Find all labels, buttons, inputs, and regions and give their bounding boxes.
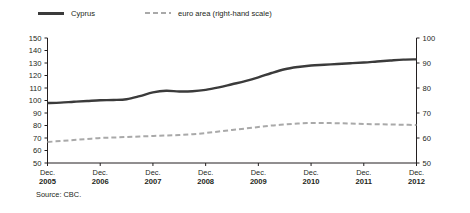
x-axis-tick-year: 2007 [144,177,161,186]
left-axis-tick-label: 150 [29,34,42,43]
left-axis-tick-label: 90 [33,109,41,118]
chart-plot-area: 5060708090100110120130140150 50607080901… [0,0,470,213]
left-axis-tick-label: 100 [29,96,42,105]
left-axis-tick-label: 50 [33,159,41,168]
source-note: Source: CBC. [36,190,81,199]
left-axis-tick-label: 140 [29,46,42,55]
right-axis-tick-label: 100 [423,34,436,43]
left-axis-tick-label: 60 [33,146,41,155]
series-line-cyprus [48,59,417,103]
x-axis-tick-year: 2010 [303,177,320,186]
chart-figure: Cyprus euro area (right-hand scale) 5060… [0,0,470,213]
left-axis-tick-label: 70 [33,134,41,143]
x-axis-tick-month: Dec. [93,168,108,177]
left-axis-tick-label: 110 [29,84,41,93]
x-axis-tick-month: Dec. [303,168,318,177]
right-axis: 5060708090100 [417,34,436,168]
right-axis-tick-label: 50 [423,159,431,168]
left-axis-tick-label: 120 [29,71,42,80]
x-axis-tick-month: Dec. [356,168,371,177]
right-axis-tick-label: 70 [423,109,431,118]
chart-series-lines [48,59,417,142]
x-axis-tick-month: Dec. [198,168,213,177]
x-axis-tick-month: Dec. [251,168,266,177]
right-axis-tick-label: 80 [423,84,431,93]
x-axis-tick-year: 2012 [408,177,425,186]
chart-svg: 5060708090100110120130140150 50607080901… [0,0,470,213]
x-axis-tick-month: Dec. [40,168,55,177]
right-axis-tick-label: 90 [423,59,431,68]
left-axis-tick-label: 130 [29,59,42,68]
x-axis-tick-month: Dec. [145,168,160,177]
x-axis-tick-year: 2011 [356,177,373,186]
x-axis-tick-year: 2005 [39,177,57,186]
x-axis: Dec.2005Dec.2006Dec.2007Dec.2008Dec.2009… [39,163,425,186]
right-axis-tick-label: 60 [423,134,431,143]
x-axis-tick-month: Dec. [409,168,424,177]
x-axis-tick-year: 2008 [197,177,214,186]
left-axis-tick-label: 80 [33,121,41,130]
x-axis-tick-year: 2009 [250,177,267,186]
x-axis-tick-year: 2006 [92,177,109,186]
series-line-euro-area [48,123,417,142]
left-axis: 5060708090100110120130140150 [29,34,48,168]
